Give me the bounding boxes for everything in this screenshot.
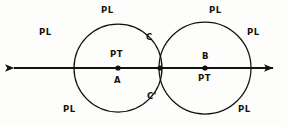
label-pl-bottom-left: PL (63, 105, 76, 114)
point-b-dot (202, 65, 207, 70)
point-a-dot (115, 65, 120, 70)
label-pt-left: PT (110, 50, 123, 59)
label-pl-upper-left: PL (39, 28, 52, 37)
label-point-c: C (146, 33, 153, 42)
geometry-diagram: PT A B PT C C' PL PL PL PL PL PL (0, 0, 287, 126)
label-pl-top-left: PL (101, 6, 114, 15)
label-pl-bottom-right: PL (238, 105, 251, 114)
label-point-a: A (114, 76, 121, 85)
label-point-c-prime: C' (147, 92, 157, 101)
label-pl-top-right: PL (209, 6, 222, 15)
label-pl-upper-right: PL (247, 28, 260, 37)
label-point-b: B (202, 52, 209, 61)
point-midpoint-dot (157, 65, 162, 70)
label-pt-right: PT (198, 74, 211, 83)
